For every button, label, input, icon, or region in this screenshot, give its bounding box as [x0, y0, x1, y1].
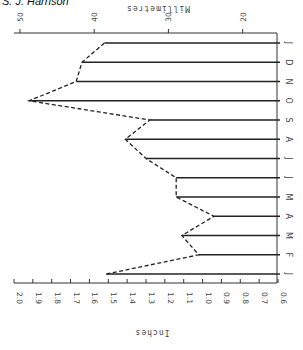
month-label: S	[284, 117, 293, 122]
month-label: M	[284, 232, 293, 239]
inch-tick-label: 1.4	[128, 292, 137, 304]
inch-tick-label: 1.2	[166, 292, 175, 304]
precipitation-chart: 2.01.91.81.71.61.51.41.31.21.11.00.90.80…	[0, 0, 303, 350]
mm-tick-label: 40	[90, 12, 99, 22]
month-label: O	[284, 98, 293, 104]
axis-labels: 2.01.91.81.71.61.51.41.31.21.11.00.90.80…	[15, 4, 293, 337]
inch-axis-title: Inches	[135, 328, 170, 337]
mm-tick-label: 50	[16, 12, 25, 22]
month-label: A	[284, 214, 293, 220]
month-label: N	[284, 79, 293, 85]
inch-tick-label: 1.6	[90, 292, 99, 304]
chart-axes	[14, 29, 278, 283]
inch-tick-label: 1.0	[204, 292, 213, 304]
month-label: J	[284, 156, 293, 159]
inch-tick-label: 0.8	[241, 292, 250, 304]
month-label: J	[284, 41, 293, 44]
inch-tick-label: 2.0	[15, 292, 24, 304]
inch-tick-label: 1.3	[147, 292, 156, 304]
month-label: M	[284, 194, 293, 201]
inch-tick-label: 1.9	[34, 292, 43, 304]
month-label: J	[284, 272, 293, 275]
inch-tick-label: 0.6	[279, 292, 288, 304]
inch-tick-label: 0.9	[222, 292, 231, 304]
inch-tick-label: 1.5	[109, 292, 118, 304]
month-label: A	[284, 137, 293, 143]
inch-tick-label: 0.7	[260, 292, 269, 304]
inch-tick-label: 1.7	[72, 292, 81, 304]
month-bars	[29, 43, 280, 274]
mm-axis-title: Millimetres	[126, 4, 190, 13]
month-label: D	[284, 59, 293, 65]
month-label: J	[284, 176, 293, 179]
month-label: F	[284, 252, 293, 257]
inch-tick-label: 1.1	[185, 292, 194, 304]
inch-tick-label: 1.8	[53, 292, 62, 304]
mm-tick-label: 20	[239, 12, 248, 22]
